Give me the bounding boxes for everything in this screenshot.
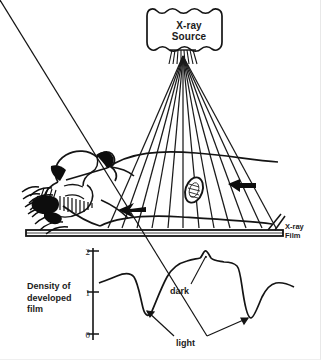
beam-ray xyxy=(152,56,183,228)
patient-body-contour xyxy=(63,152,278,226)
beam-ray xyxy=(122,56,183,228)
light-annotation-label: light xyxy=(176,338,195,348)
figure-canvas: X-ray Source X-ray Film Density of devel… xyxy=(0,0,321,360)
beam-ray xyxy=(108,56,183,228)
y-tick-label-2: 2 xyxy=(78,247,90,257)
patient-head-profile xyxy=(22,151,134,234)
y-tick-label-0: 0 xyxy=(78,330,90,340)
dark-annotation-label: dark xyxy=(170,286,189,296)
density-curve xyxy=(99,251,294,318)
y-tick-label-1: 1 xyxy=(78,288,90,298)
plot-y-axis-label: Density of developed film xyxy=(27,281,87,316)
dark-anchor-dot xyxy=(205,256,207,258)
dense-oval-object xyxy=(182,175,206,205)
x-ray-film-label: X-ray Film xyxy=(285,222,321,241)
left-pointing-arrow-outer xyxy=(118,203,146,218)
x-ray-source-label: X-ray Source xyxy=(158,20,220,42)
